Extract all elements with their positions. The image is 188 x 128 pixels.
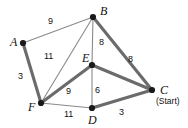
vertex-dot-f xyxy=(38,100,44,106)
start-annotation: (Start) xyxy=(156,97,180,106)
vertex-label-c: C xyxy=(160,84,168,96)
edge-a-b xyxy=(23,17,93,43)
vertex-label-d: D xyxy=(88,114,97,126)
edge-weight-f-d: 11 xyxy=(64,110,73,119)
edge-weight-f-e: 9 xyxy=(66,87,71,96)
vertex-label-f: F xyxy=(28,101,35,113)
edge-weight-a-b: 9 xyxy=(48,17,53,26)
vertex-label-a: A xyxy=(10,36,17,48)
edge-weight-e-d: 6 xyxy=(95,86,100,95)
edge-weight-b-c: 8 xyxy=(128,55,133,64)
vertex-label-e: E xyxy=(82,52,89,64)
edge-weight-b-e: 8 xyxy=(99,38,104,47)
vertex-dot-d xyxy=(89,105,95,111)
vertex-dot-e xyxy=(89,62,95,68)
edge-d-c xyxy=(92,90,152,108)
edge-weight-d-c: 3 xyxy=(119,108,124,117)
vertex-dot-c xyxy=(149,87,155,93)
edge-f-e xyxy=(41,65,92,103)
vertex-dot-a xyxy=(20,40,26,46)
edge-f-d xyxy=(41,103,92,108)
vertex-dot-b xyxy=(90,14,96,20)
vertex-label-b: B xyxy=(100,5,107,17)
edge-a-f xyxy=(23,43,41,103)
edge-weight-a-f: 3 xyxy=(18,72,23,81)
edge-weight-b-f: 11 xyxy=(44,52,53,61)
edge-b-e xyxy=(92,17,93,65)
graph-figure: ABC(Start)DEF93118891163 xyxy=(0,0,188,128)
